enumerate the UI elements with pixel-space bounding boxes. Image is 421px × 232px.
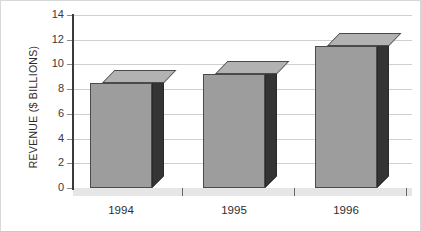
bars-layer <box>72 15 412 188</box>
bar-side-face <box>377 34 389 188</box>
bar-top-face <box>327 33 402 46</box>
x-axis-tick <box>294 188 295 196</box>
y-axis-tick-label: 12 <box>42 34 64 45</box>
bar-side-face <box>152 71 164 188</box>
y-axis-tick <box>67 188 72 189</box>
bar-top-face <box>102 70 177 83</box>
x-axis-category-label: 1994 <box>80 204 162 216</box>
y-axis-tick-label: 6 <box>42 108 64 119</box>
y-axis-tick-label: 0 <box>42 182 64 193</box>
bar-front-face <box>203 74 265 188</box>
bar-chart: REVENUE ($ BILLIONS) 02468101214 1994199… <box>0 0 421 232</box>
y-axis-tick-label: 4 <box>42 133 64 144</box>
y-axis-title: REVENUE ($ BILLIONS) <box>27 12 39 202</box>
x-axis-tick <box>406 188 407 196</box>
y-axis-tick-label: 10 <box>42 58 64 69</box>
bar-top-face <box>215 61 290 74</box>
frame-left-border <box>0 0 1 232</box>
bar <box>315 46 377 188</box>
bar-front-face <box>315 46 377 188</box>
x-axis-category-label: 1996 <box>305 204 387 216</box>
x-axis-category-label: 1995 <box>193 204 275 216</box>
bar-side-face <box>265 62 277 188</box>
y-axis-tick-label: 2 <box>42 157 64 168</box>
y-axis-tick-label: 8 <box>42 83 64 94</box>
frame-top-border <box>0 0 421 1</box>
bar <box>203 74 265 188</box>
y-axis-tick-label: 14 <box>42 9 64 20</box>
x-axis-tick <box>182 188 183 196</box>
chart-floor <box>72 188 412 196</box>
bar-front-face <box>90 83 152 188</box>
bar <box>90 83 152 188</box>
frame-bottom-border <box>0 231 421 232</box>
